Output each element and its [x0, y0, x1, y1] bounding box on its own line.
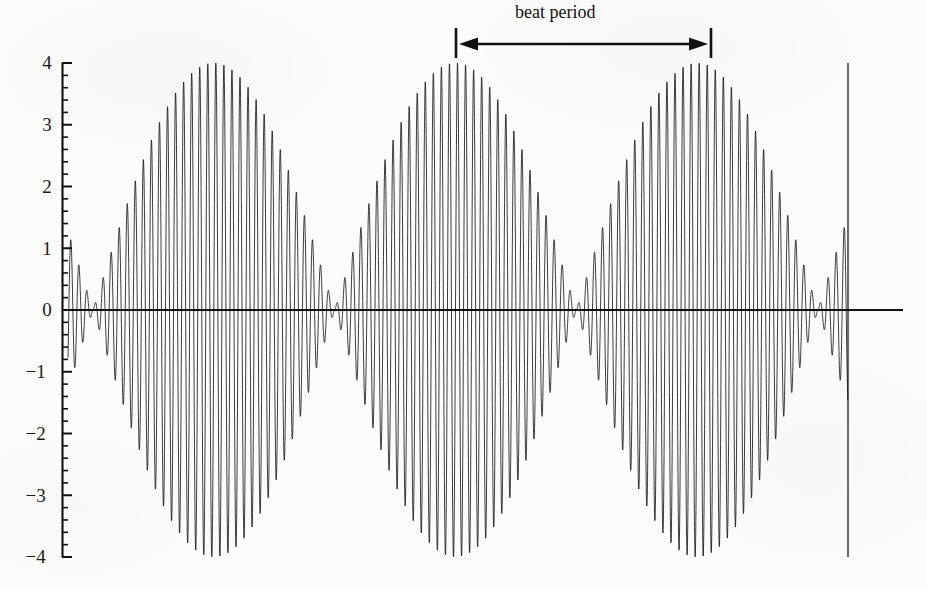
arrow-head-left-icon: [459, 38, 478, 51]
y-tick-label-3: 3: [12, 114, 52, 136]
y-tick-label-0: 0: [12, 299, 52, 321]
beat-period-text: beat period: [515, 2, 595, 23]
waveform-plot: [0, 0, 927, 589]
y-tick-label-1: 1: [12, 238, 52, 260]
y-axis-ticks: [62, 63, 72, 557]
arrow-head-right-icon: [689, 38, 708, 51]
y-tick-label-4: 4: [12, 52, 52, 74]
beat-waveform-figure: 4 3 2 1 0 −1 −2 −3 −4 beat period: [0, 0, 927, 589]
y-tick-label-neg1: −1: [6, 361, 46, 383]
y-tick-label-2: 2: [12, 176, 52, 198]
beat-period-annotation: [456, 28, 711, 58]
y-tick-label-neg3: −3: [6, 485, 46, 507]
y-tick-label-neg2: −2: [6, 423, 46, 445]
y-tick-label-neg4: −4: [6, 546, 46, 568]
